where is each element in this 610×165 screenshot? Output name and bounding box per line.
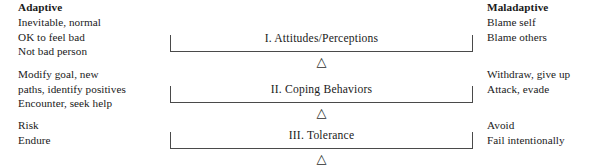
section-3-label: III. Tolerance xyxy=(170,127,473,144)
triangle-icon: △ xyxy=(317,54,327,70)
section-1-bracket: I. Attitudes/Perceptions xyxy=(170,30,473,52)
adaptive-group-1-line-1: Inevitable, normal xyxy=(18,15,168,30)
section-2-bracket-stem-left xyxy=(170,86,171,103)
section-2-bracket: II. Coping Behaviors xyxy=(170,81,473,103)
adaptive-group-3: Risk Endure xyxy=(18,118,168,147)
section-3-bracket-stem-left xyxy=(170,132,171,149)
adaptive-column-header: Adaptive xyxy=(18,0,168,14)
adaptive-group-3-line-1: Risk xyxy=(18,118,168,133)
section-1-label: I. Attitudes/Perceptions xyxy=(170,30,473,47)
maladaptive-group-2: Withdraw, give up Attack, evade xyxy=(487,67,610,96)
maladaptive-group-1-line-2: Blame others xyxy=(487,30,610,45)
section-1: I. Attitudes/Perceptions △ xyxy=(170,30,473,68)
maladaptive-column: Maladaptive Blame self Blame others With… xyxy=(487,0,610,165)
maladaptive-group-3-line-2: Fail intentionally xyxy=(487,133,610,148)
maladaptive-group-2-line-2: Attack, evade xyxy=(487,82,610,97)
section-2-bracket-stem-right xyxy=(472,86,473,103)
maladaptive-group-1: Blame self Blame others xyxy=(487,15,610,44)
section-3: III. Tolerance △ xyxy=(170,127,473,165)
section-3-marker-row: △ xyxy=(170,149,473,165)
maladaptive-group-1-line-1: Blame self xyxy=(487,15,610,30)
section-2-label: II. Coping Behaviors xyxy=(170,81,473,98)
section-2: II. Coping Behaviors △ xyxy=(170,81,473,119)
section-2-marker-row: △ xyxy=(170,103,473,119)
adaptive-maladaptive-diagram: Adaptive Inevitable, normal OK to feel b… xyxy=(0,0,610,165)
adaptive-group-2-line-3: Encounter, seek help xyxy=(18,96,168,111)
adaptive-group-2-line-2: paths, identify positives xyxy=(18,82,168,97)
section-3-bracket-stem-right xyxy=(472,132,473,149)
triangle-icon: △ xyxy=(317,151,327,165)
maladaptive-group-2-line-1: Withdraw, give up xyxy=(487,67,610,82)
adaptive-group-1: Inevitable, normal OK to feel bad Not ba… xyxy=(18,15,168,59)
adaptive-column: Adaptive Inevitable, normal OK to feel b… xyxy=(18,0,168,165)
section-1-bracket-stem-left xyxy=(170,35,171,52)
adaptive-group-2-line-1: Modify goal, new xyxy=(18,67,168,82)
adaptive-group-1-line-2: OK to feel bad xyxy=(18,30,168,45)
section-3-bracket: III. Tolerance xyxy=(170,127,473,149)
triangle-icon: △ xyxy=(317,105,327,121)
adaptive-group-3-line-2: Endure xyxy=(18,133,168,148)
section-1-marker-row: △ xyxy=(170,52,473,68)
maladaptive-group-3: Avoid Fail intentionally xyxy=(487,118,610,147)
adaptive-group-1-line-3: Not bad person xyxy=(18,44,168,59)
section-1-bracket-stem-right xyxy=(472,35,473,52)
maladaptive-column-header: Maladaptive xyxy=(487,0,610,14)
maladaptive-group-3-line-1: Avoid xyxy=(487,118,610,133)
adaptive-group-2: Modify goal, new paths, identify positiv… xyxy=(18,67,168,111)
